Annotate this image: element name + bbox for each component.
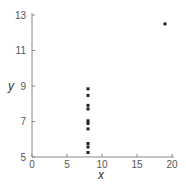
scatter-chart: 051015205791113 x y: [0, 0, 186, 190]
x-tick-label: 0: [29, 159, 35, 170]
data-point: [87, 142, 90, 145]
y-tick-label: 5: [20, 152, 26, 163]
data-point: [87, 127, 90, 130]
x-tick-label: 20: [166, 159, 178, 170]
data-points: [87, 22, 167, 154]
data-point: [164, 22, 167, 25]
x-tick-label: 5: [64, 159, 70, 170]
data-point: [87, 107, 90, 110]
y-tick-label: 11: [16, 45, 27, 56]
data-point: [87, 104, 90, 107]
data-point: [87, 146, 90, 149]
y-tick-label: 9: [20, 81, 26, 92]
x-axis-label: x: [97, 168, 105, 182]
data-point: [87, 94, 90, 97]
data-point: [87, 119, 90, 122]
y-tick-label: 13: [15, 10, 27, 21]
x-tick-label: 15: [131, 159, 143, 170]
y-axis-label: y: [7, 79, 15, 93]
data-point: [87, 151, 90, 154]
data-point: [87, 122, 90, 125]
data-point: [87, 87, 90, 90]
y-tick-label: 7: [20, 116, 26, 127]
axes: 051015205791113: [15, 10, 178, 171]
